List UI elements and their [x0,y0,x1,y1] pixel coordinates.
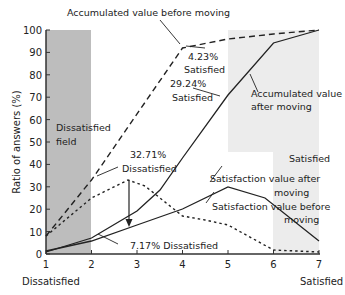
annotation-4-23-pct: 4.23% [188,51,218,62]
svg-text:70: 70 [29,92,42,103]
svg-text:50: 50 [29,137,42,148]
dissatisfied-field-label-1: Dissatisfied [56,122,111,133]
dissatisfied-field-label-2: field [56,136,77,147]
annotation-sat-before-2: moving [284,214,319,225]
svg-text:3: 3 [134,259,140,270]
y-axis-label: Ratio of answers (%) [11,90,22,194]
annotation-29-24-pct: 29.24% [170,78,206,89]
annotation-32-71-pct: 32.71% [130,149,166,160]
svg-text:30: 30 [29,182,42,193]
chart: 0 10 20 30 40 50 60 70 80 90 100 1 2 3 4… [0,0,345,295]
annotation-acc-after-2: after moving [251,101,312,112]
annotation-4-23-satisfied: Satisfied [184,64,225,75]
annotation-sat-after-1: Satisfaction value after [210,173,320,184]
annotation-32-71-dissatisfied: Dissatisfied [122,163,177,174]
svg-text:80: 80 [29,70,42,81]
x-label-dissatisfied: Dissatisfied [22,276,80,287]
svg-text:100: 100 [23,25,42,36]
annotation-sat-before-1: Satisfaction value before [212,201,330,212]
svg-text:5: 5 [225,259,231,270]
svg-text:1: 1 [43,259,49,270]
svg-text:10: 10 [29,227,42,238]
svg-text:90: 90 [29,47,42,58]
satisfied-region-label: Satisfied [289,153,330,164]
x-label-satisfied: Satisfied [300,276,343,287]
annotation-acc-before: Accumulated value before moving [67,7,230,18]
svg-text:0: 0 [36,249,42,260]
annotation-29-24-satisfied: Satisfied [172,92,213,103]
drop-arrowhead [126,219,133,227]
svg-text:40: 40 [29,159,42,170]
annotation-7-17-dissatisfied: 7.17% Dissatisfied [130,240,218,251]
svg-text:7: 7 [316,259,322,270]
svg-text:2: 2 [88,259,94,270]
svg-text:60: 60 [29,115,42,126]
svg-text:6: 6 [270,259,276,270]
svg-text:20: 20 [29,204,42,215]
svg-text:4: 4 [179,259,185,270]
annotation-acc-after-1: Accumulated value [251,88,342,99]
annotation-sat-after-2: moving [274,187,309,198]
